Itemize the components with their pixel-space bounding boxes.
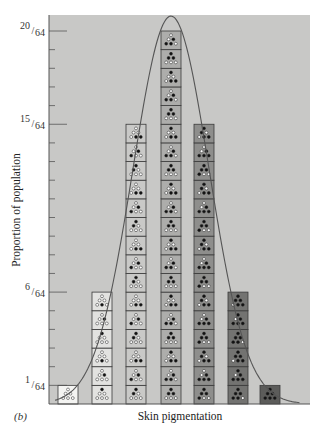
dark-allele-dot <box>130 266 133 269</box>
light-allele-dot <box>67 388 70 391</box>
light-allele-dot <box>67 397 70 400</box>
light-allele-dot <box>135 173 138 176</box>
dark-allele-dot <box>203 295 206 298</box>
light-allele-dot <box>167 318 170 321</box>
dark-allele-dot <box>205 318 208 321</box>
dark-allele-dot <box>198 173 201 176</box>
dark-allele-dot <box>174 303 177 306</box>
light-allele-dot <box>130 285 133 288</box>
dark-allele-dot <box>170 239 173 242</box>
dark-allele-dot <box>165 266 168 269</box>
dark-allele-dot <box>135 164 138 167</box>
dark-allele-dot <box>139 191 142 194</box>
dark-allele-dot <box>200 187 203 190</box>
dark-allele-dot <box>234 355 237 358</box>
light-allele-dot <box>103 336 106 339</box>
dark-allele-dot <box>237 295 240 298</box>
dark-allele-dot <box>269 397 272 400</box>
light-allele-dot <box>203 341 206 344</box>
light-allele-dot <box>137 243 140 246</box>
light-allele-dot <box>137 280 140 283</box>
dark-allele-dot <box>203 351 206 354</box>
light-allele-dot <box>200 206 203 209</box>
light-allele-dot <box>165 285 168 288</box>
dark-allele-dot <box>135 359 138 362</box>
dark-allele-dot <box>174 136 177 139</box>
light-allele-dot <box>170 397 173 400</box>
dark-allele-dot <box>200 280 203 283</box>
svg-text:6: 6 <box>25 281 30 292</box>
column-2 <box>126 124 146 404</box>
dark-allele-dot <box>170 210 173 213</box>
dark-allele-dot <box>137 318 140 321</box>
light-allele-dot <box>103 392 106 395</box>
light-allele-dot <box>174 322 177 325</box>
dark-allele-dot <box>174 359 177 362</box>
light-allele-dot <box>98 299 101 302</box>
light-allele-dot <box>165 136 168 139</box>
dark-allele-dot <box>198 378 201 381</box>
light-allele-dot <box>135 378 138 381</box>
dark-allele-dot <box>167 336 170 339</box>
dark-allele-dot <box>207 247 210 250</box>
light-allele-dot <box>135 229 138 232</box>
light-allele-dot <box>172 75 175 78</box>
dark-allele-dot <box>172 392 175 395</box>
dark-allele-dot <box>170 98 173 101</box>
light-allele-dot <box>205 131 208 134</box>
light-allele-dot <box>165 173 168 176</box>
dark-allele-dot <box>203 276 206 279</box>
light-allele-dot <box>165 303 168 306</box>
svg-text:64: 64 <box>35 27 45 38</box>
light-allele-dot <box>101 378 104 381</box>
light-allele-dot <box>165 397 168 400</box>
dark-allele-dot <box>232 322 235 325</box>
dark-allele-dot <box>172 94 175 97</box>
svg-text:64: 64 <box>35 120 45 131</box>
light-allele-dot <box>170 117 173 120</box>
dark-allele-dot <box>207 303 210 306</box>
light-allele-dot <box>98 374 101 377</box>
light-allele-dot <box>200 318 203 321</box>
light-allele-dot <box>170 146 173 149</box>
dark-allele-dot <box>139 136 142 139</box>
light-allele-dot <box>174 42 177 45</box>
dark-allele-dot <box>135 247 138 250</box>
dark-allele-dot <box>170 191 173 194</box>
light-allele-dot <box>135 257 138 260</box>
light-allele-dot <box>167 262 170 265</box>
dark-allele-dot <box>170 247 173 250</box>
light-allele-dot <box>101 369 104 372</box>
dark-allele-dot <box>172 374 175 377</box>
dark-allele-dot <box>167 57 170 60</box>
light-allele-dot <box>207 285 210 288</box>
column-4 <box>194 124 214 404</box>
dark-allele-dot <box>101 359 104 362</box>
dark-allele-dot <box>207 322 210 325</box>
dark-allele-dot <box>101 303 104 306</box>
light-allele-dot <box>135 183 138 186</box>
light-allele-dot <box>103 299 106 302</box>
dark-allele-dot <box>232 378 235 381</box>
dark-allele-dot <box>137 206 140 209</box>
light-allele-dot <box>130 341 133 344</box>
dark-allele-dot <box>200 224 203 227</box>
light-allele-dot <box>205 355 208 358</box>
light-allele-dot <box>105 378 108 381</box>
dark-allele-dot <box>203 378 206 381</box>
dark-allele-dot <box>273 397 276 400</box>
dark-allele-dot <box>237 397 240 400</box>
dark-allele-dot <box>139 303 142 306</box>
dark-allele-dot <box>198 285 201 288</box>
light-allele-dot <box>98 355 101 358</box>
y-tick-label: 6/64 <box>25 281 45 299</box>
light-allele-dot <box>167 131 170 134</box>
svg-text:64: 64 <box>35 288 45 299</box>
dark-allele-dot <box>135 276 138 279</box>
dark-allele-dot <box>237 303 240 306</box>
light-allele-dot <box>174 378 177 381</box>
dark-allele-dot <box>165 98 168 101</box>
light-allele-dot <box>205 243 208 246</box>
dark-allele-dot <box>266 392 269 395</box>
dark-allele-dot <box>203 303 206 306</box>
